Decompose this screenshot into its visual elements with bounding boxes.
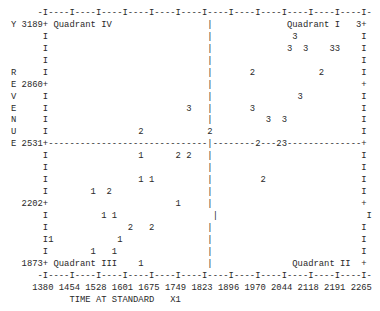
plot-row-y-2860: E 2860+ | +: [11, 80, 372, 92]
plot-row: I 1 2 2 | I: [11, 151, 372, 163]
x-axis-title: TIME AT STANDARD X1: [11, 295, 372, 307]
plot-row: N I | 3 3 I: [11, 115, 372, 127]
plot-row: R I | 2 2 I: [11, 68, 372, 80]
plot-row: E I 3 | 3 I: [11, 104, 372, 116]
top-axis: -I----I----I----I----I----I----I----I---…: [11, 8, 372, 20]
plot-row: U I 2 2 I: [11, 127, 372, 139]
x-tick-labels: 1380 1454 1528 1601 1675 1749 1823 1896 …: [11, 283, 372, 295]
plot-row: I | I: [11, 163, 372, 175]
plot-row: I 1 1 | I: [11, 247, 372, 259]
plot-row: I 2 2 | I: [11, 223, 372, 235]
plot-row: I 1 1 | 2 I: [11, 175, 372, 187]
plot-row: I 1 1 | I: [11, 211, 372, 223]
plot-row: I | 3 I: [11, 32, 372, 44]
ascii-scatter-plot: -I----I----I----I----I----I----I----I---…: [11, 8, 372, 306]
plot-row-y-3189: Y 3189+ Quadrant IV | Quadrant I 3+: [11, 20, 372, 32]
plot-row-y-2531-divider: E 2531+------------------------------|--…: [11, 139, 372, 151]
plot-row-y-1873: 1873+ Quadrant III 1 | Quadrant II +: [11, 259, 372, 271]
plot-row: I 1 2 | I: [11, 187, 372, 199]
plot-row-y-2202: 2202+ 1 | +: [11, 199, 372, 211]
plot-row: I | 3 3 33 I: [11, 44, 372, 56]
plot-row: I | I: [11, 56, 372, 68]
plot-row: I1 1 | I: [11, 235, 372, 247]
bottom-axis: -I----I----I----I----I----I----I----I---…: [11, 271, 372, 283]
plot-row: V I | 3 I: [11, 92, 372, 104]
